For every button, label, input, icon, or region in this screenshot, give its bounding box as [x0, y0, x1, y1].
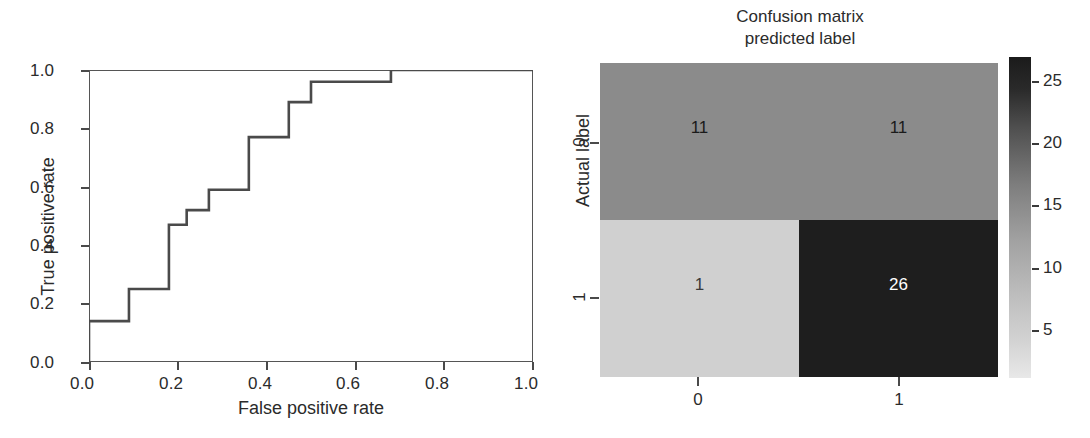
roc-ytick-label-0: 0.0: [30, 353, 54, 373]
cm-xtick-0: [697, 377, 699, 386]
colorbar-label-20: 20: [1043, 133, 1062, 153]
roc-curve-svg: [89, 70, 533, 362]
roc-xtick-label-3: 0.6: [336, 374, 360, 394]
colorbar-tick-25: [1032, 81, 1039, 83]
roc-x-axis-title: False positive rate: [89, 398, 533, 419]
roc-ytick-1: [81, 303, 89, 305]
colorbar-label-15: 15: [1043, 195, 1062, 215]
confusion-matrix-title-line2: predicted label: [600, 28, 1000, 50]
cm-y-axis-title: Actual label: [573, 51, 594, 271]
roc-xtick-3: [355, 362, 357, 370]
cm-cell-value: 1: [695, 275, 704, 295]
roc-y-axis-title: True positive rate: [38, 117, 59, 337]
roc-xtick-1: [177, 362, 179, 370]
cm-cell-actual0-pred1[interactable]: 11: [799, 63, 998, 220]
roc-xtick-2: [266, 362, 268, 370]
roc-xtick-0: [89, 362, 91, 370]
roc-ytick-label-5: 1.0: [30, 61, 54, 81]
roc-xtick-5: [532, 362, 534, 370]
cm-cell-actual0-pred0[interactable]: 11: [600, 63, 799, 220]
roc-ytick-0: [81, 362, 89, 364]
roc-xtick-label-2: 0.4: [248, 374, 272, 394]
cm-cell-actual1-pred1[interactable]: 26: [799, 220, 998, 377]
cm-xtick-label-0: 0: [690, 390, 706, 410]
roc-xtick-label-0: 0.0: [70, 374, 94, 394]
cm-ytick-1: [590, 297, 599, 299]
cm-ytick-label-1: 1: [570, 284, 590, 310]
cm-cell-actual1-pred0[interactable]: 1: [600, 220, 799, 377]
roc-plot-panel: 0.0 0.2 0.4 0.6 0.8 1.0 0.0 0.2 0.4 0.6 …: [0, 0, 545, 438]
cm-xtick-1: [898, 377, 900, 386]
confusion-matrix-grid: 11 11 1 26: [600, 63, 998, 377]
cm-cell-value: 11: [691, 118, 709, 138]
cm-cell-value: 11: [890, 118, 908, 138]
roc-xtick-label-4: 0.8: [425, 374, 449, 394]
roc-ytick-4: [81, 128, 89, 130]
colorbar-label-25: 25: [1043, 71, 1062, 91]
roc-xtick-label-1: 0.2: [159, 374, 183, 394]
colorbar-gradient: [1009, 57, 1031, 378]
cm-cell-value: 26: [889, 275, 908, 295]
colorbar-label-5: 5: [1043, 320, 1052, 340]
roc-ytick-3: [81, 187, 89, 189]
colorbar-tick-15: [1032, 205, 1039, 207]
roc-xtick-4: [443, 362, 445, 370]
roc-curve-line: [89, 70, 533, 362]
roc-ytick-5: [81, 70, 89, 72]
roc-xtick-label-5: 1.0: [514, 374, 538, 394]
colorbar-label-10: 10: [1043, 258, 1062, 278]
colorbar-tick-20: [1032, 143, 1039, 145]
figure-canvas: 0.0 0.2 0.4 0.6 0.8 1.0 0.0 0.2 0.4 0.6 …: [0, 0, 1090, 438]
confusion-matrix-panel: Confusion matrix predicted label 11 11 1…: [545, 0, 1090, 438]
roc-ytick-2: [81, 245, 89, 247]
cm-xtick-label-1: 1: [891, 390, 907, 410]
confusion-matrix-title: Confusion matrix predicted label: [600, 6, 1000, 50]
colorbar-tick-5: [1032, 330, 1039, 332]
colorbar-tick-10: [1032, 268, 1039, 270]
confusion-matrix-title-line1: Confusion matrix: [600, 6, 1000, 28]
